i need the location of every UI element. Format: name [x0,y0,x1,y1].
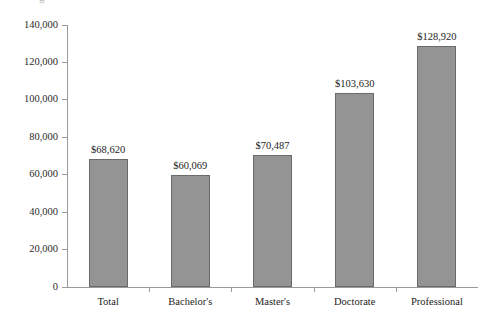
y-axis-tick-label: 100,000 [2,94,58,105]
y-axis-tick-label-wrap: 60,000 [0,169,58,180]
bar-value-label: $70,487 [228,140,318,151]
y-axis-tick-label: 140,000 [2,20,58,31]
x-axis-separator [231,287,232,292]
y-axis-tick-mark [62,249,68,250]
y-axis-tick-label: 20,000 [2,244,58,255]
bar [335,93,374,287]
x-axis-separator [396,287,397,292]
bar-value-label: $60,069 [145,160,235,171]
y-axis-tick-label-wrap: 120,000 [0,57,58,68]
bar [171,175,210,287]
x-axis-separator [149,287,150,292]
y-axis-tick-mark [62,137,68,138]
y-axis-tick-label: 80,000 [2,132,58,143]
y-axis-tick-mark [62,62,68,63]
x-axis-line [67,287,478,288]
clipped-text-artifact: g [39,0,45,3]
x-axis-category-label: Professional [392,296,482,307]
y-axis-tick-label-wrap: 100,000 [0,94,58,105]
y-axis-tick-mark [62,287,68,288]
bar [89,159,128,287]
y-axis-tick-mark [62,25,68,26]
x-axis-category-label: Total [63,296,153,307]
x-axis-separator [314,287,315,292]
bar-value-label: $128,920 [392,31,482,42]
y-axis-tick-label-wrap: 140,000 [0,20,58,31]
y-axis-tick-mark [62,99,68,100]
y-axis-tick-label-wrap: 40,000 [0,207,58,218]
y-axis-tick-label: 120,000 [2,57,58,68]
y-axis-tick-label-wrap: 20,000 [0,244,58,255]
bar [253,155,292,287]
y-axis-tick-label-wrap: 0 [0,282,58,293]
x-axis-category-label: Doctorate [310,296,400,307]
bar [417,46,456,287]
y-axis-tick-label: 60,000 [2,169,58,180]
bar-value-label: $103,630 [310,78,400,89]
y-axis-tick-label-wrap: 80,000 [0,132,58,143]
bar-value-label: $68,620 [63,144,153,155]
bar-chart: g 020,00040,00060,00080,000100,000120,00… [0,0,492,321]
y-axis-tick-label: 0 [2,282,58,293]
x-axis-category-label: Master's [228,296,318,307]
y-axis-tick-mark [62,174,68,175]
y-axis-tick-label: 40,000 [2,207,58,218]
x-axis-category-label: Bachelor's [145,296,235,307]
y-axis-tick-mark [62,212,68,213]
